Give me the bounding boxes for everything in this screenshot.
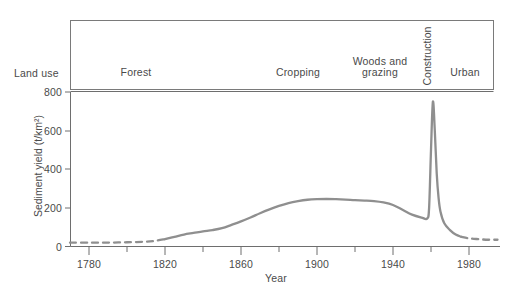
x-tick-label-1940: 1940 — [373, 258, 413, 270]
land-use-row-title: Land use — [14, 67, 59, 79]
series-dashed-end — [461, 237, 497, 240]
land-use-label-cropping: Cropping — [265, 67, 331, 78]
x-tick-label-1780: 1780 — [69, 258, 109, 270]
land-use-label-urban: Urban — [441, 67, 489, 78]
sediment-yield-chart-figure: Land use Forest Cropping Woods and grazi… — [0, 0, 510, 294]
x-tick-label-1820: 1820 — [145, 258, 185, 270]
series-solid-main — [165, 101, 461, 239]
x-tick-label-1860: 1860 — [221, 258, 261, 270]
x-axis-ticks — [89, 247, 469, 256]
x-tick-label-1900: 1900 — [297, 258, 337, 270]
land-use-label-woods-line2: grazing — [347, 67, 413, 78]
x-tick-label-1980: 1980 — [449, 258, 489, 270]
y-axis-ticks — [65, 92, 71, 247]
chart-canvas — [0, 0, 510, 294]
land-use-label-construction: Construction — [421, 23, 433, 89]
land-use-label-forest: Forest — [106, 67, 166, 78]
x-axis-title: Year — [256, 272, 296, 284]
y-axis-title: Sediment yield (t/km²) — [32, 96, 44, 236]
series-dashed-start — [70, 239, 165, 243]
y-tick-label-0: 0 — [30, 241, 62, 253]
